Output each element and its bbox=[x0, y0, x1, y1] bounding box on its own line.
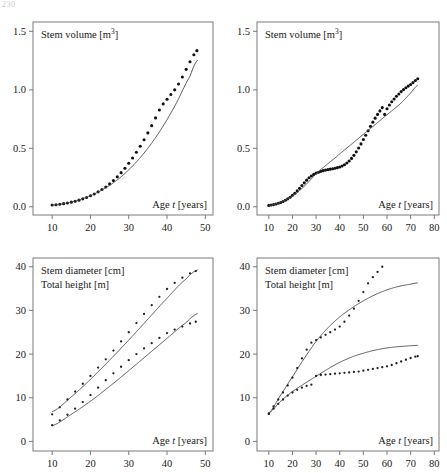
data-point bbox=[277, 398, 279, 400]
x-tick-label: 50 bbox=[358, 222, 369, 233]
data-point bbox=[120, 340, 122, 342]
data-point bbox=[355, 150, 358, 153]
x-axis-title: Age t [years] bbox=[152, 435, 207, 446]
data-point bbox=[282, 391, 284, 393]
series-dots bbox=[268, 355, 419, 415]
series-dots bbox=[267, 77, 419, 207]
data-point bbox=[357, 300, 359, 302]
panel-title: Stem volume [m3] bbox=[41, 27, 118, 40]
data-point bbox=[181, 325, 183, 327]
data-point bbox=[348, 314, 350, 316]
data-point bbox=[393, 97, 396, 100]
data-point bbox=[151, 304, 153, 306]
data-point bbox=[131, 156, 134, 159]
data-point bbox=[143, 347, 145, 349]
data-point bbox=[174, 282, 176, 284]
panel-title-line2: Total height [m] bbox=[265, 279, 333, 290]
x-tick-label: 40 bbox=[334, 222, 345, 233]
series-line bbox=[269, 85, 418, 205]
data-point bbox=[51, 413, 53, 415]
data-point bbox=[291, 376, 293, 378]
data-point bbox=[146, 131, 149, 134]
data-point bbox=[405, 359, 407, 361]
data-point bbox=[185, 68, 188, 71]
data-point bbox=[166, 332, 168, 334]
data-point bbox=[128, 359, 130, 361]
data-point bbox=[165, 98, 168, 101]
data-point bbox=[158, 108, 161, 111]
series-dots bbox=[51, 49, 199, 207]
data-point bbox=[348, 159, 351, 162]
data-point bbox=[376, 367, 378, 369]
data-point bbox=[374, 117, 377, 120]
chart-bottom-right: 0102030401020304050607080Stem diameter [… bbox=[224, 246, 447, 473]
x-tick-label: 30 bbox=[123, 222, 134, 233]
data-point bbox=[277, 403, 279, 405]
data-point bbox=[381, 366, 383, 368]
data-point bbox=[272, 405, 274, 407]
data-point bbox=[416, 77, 419, 80]
data-point bbox=[386, 365, 388, 367]
data-point bbox=[343, 372, 345, 374]
panel-top-right: 0.00.51.01.51020304050607080Stem volume … bbox=[224, 10, 447, 236]
data-point bbox=[362, 291, 364, 293]
x-tick-label: 80 bbox=[429, 222, 440, 233]
data-point bbox=[296, 389, 298, 391]
data-point bbox=[139, 145, 142, 148]
page-number: 230 bbox=[2, 0, 16, 9]
y-tick-label: 40 bbox=[240, 261, 251, 272]
data-point bbox=[192, 53, 195, 56]
data-point bbox=[268, 413, 270, 415]
panel-bottom-left: 0102030401020304050Stem diameter [cm]Tot… bbox=[0, 246, 223, 473]
data-point bbox=[116, 175, 119, 178]
y-tick-label: 10 bbox=[16, 392, 27, 403]
x-tick-label: 70 bbox=[405, 458, 416, 469]
data-point bbox=[320, 374, 322, 376]
data-point bbox=[301, 357, 303, 359]
x-tick-label: 20 bbox=[85, 458, 96, 469]
data-point bbox=[400, 90, 403, 93]
x-tick-label: 40 bbox=[334, 458, 345, 469]
chart-top-left: 0.00.51.01.51020304050Stem volume [m3]Ag… bbox=[0, 10, 223, 236]
x-tick-label: 10 bbox=[47, 458, 58, 469]
data-point bbox=[195, 321, 197, 323]
y-tick-label: 30 bbox=[16, 305, 27, 316]
panel-top-left: 0.00.51.01.51020304050Stem volume [m3]Ag… bbox=[0, 10, 223, 236]
chart-top-right: 0.00.51.01.51020304050607080Stem volume … bbox=[224, 10, 447, 236]
data-point bbox=[320, 336, 322, 338]
data-point bbox=[287, 384, 289, 386]
x-tick-label: 40 bbox=[162, 222, 173, 233]
data-point bbox=[395, 362, 397, 364]
data-point bbox=[169, 93, 172, 96]
series-dots bbox=[51, 270, 197, 416]
data-point bbox=[350, 157, 353, 160]
y-tick-label: 1.5 bbox=[13, 26, 26, 37]
panel-bottom-right: 0102030401020304050607080Stem diameter [… bbox=[224, 246, 447, 473]
x-tick-label: 30 bbox=[123, 458, 134, 469]
y-tick-label: 1.0 bbox=[13, 84, 26, 95]
data-point bbox=[82, 383, 84, 385]
data-point bbox=[381, 106, 384, 109]
plot-area bbox=[51, 270, 198, 427]
x-tick-label: 20 bbox=[85, 222, 96, 233]
data-point bbox=[300, 184, 303, 187]
data-point bbox=[59, 406, 61, 408]
data-point bbox=[362, 138, 365, 141]
data-point bbox=[376, 113, 379, 116]
data-point bbox=[339, 325, 341, 327]
data-point bbox=[409, 357, 411, 359]
data-point bbox=[400, 360, 402, 362]
data-point bbox=[397, 92, 400, 95]
y-tick-label: 1.0 bbox=[237, 84, 250, 95]
data-point bbox=[310, 342, 312, 344]
data-point bbox=[353, 371, 355, 373]
data-point bbox=[151, 342, 153, 344]
data-point bbox=[324, 334, 326, 336]
y-tick-label: 0 bbox=[245, 436, 250, 447]
data-point bbox=[324, 373, 326, 375]
data-point bbox=[135, 151, 138, 154]
data-point bbox=[353, 308, 355, 310]
panel-title-line1: Stem diameter [cm] bbox=[265, 265, 348, 276]
data-point bbox=[329, 331, 331, 333]
data-point bbox=[301, 387, 303, 389]
